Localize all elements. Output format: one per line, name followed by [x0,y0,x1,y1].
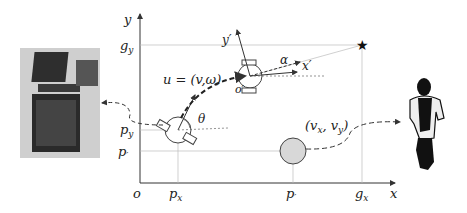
human-position [280,138,306,164]
tick-px-prime: p′ [286,186,296,203]
human-velocity-label: (vx, vy) [305,118,348,135]
origin-label: o [133,186,141,201]
tick-gx: gx [355,186,368,203]
robot-photo [20,48,100,158]
o-prime-label: o′ [235,83,245,96]
y-axis-label: y [123,12,132,27]
tick-py-prime: p′ [118,144,128,161]
robot-current [156,117,196,144]
x-axis-label: x [390,186,398,201]
robot-navigation-diagram: ★ y x o px p′ gx gy py p′ u = (v,ω) θ α … [0,0,467,213]
photo-link-arrow [102,103,163,126]
x-prime-label: x′ [302,59,312,73]
y-prime-label: y′ [221,33,232,47]
alpha-label: α [280,53,288,67]
tick-px: px [169,186,182,203]
goal-star-icon: ★ [356,37,369,53]
tick-gy: gy [120,38,134,55]
human-figure [410,78,444,170]
control-input-label: u = (v,ω) [163,72,221,87]
theta-label: θ [198,112,206,126]
tick-py: py [120,122,134,139]
